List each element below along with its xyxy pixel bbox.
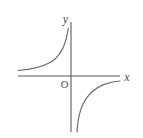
hyperbola-branch-quadrant-2 <box>18 28 68 70</box>
y-axis-label: y <box>62 12 69 26</box>
hyperbola-branch-quadrant-4 <box>77 81 120 132</box>
hyperbola-figure: y x O <box>0 0 143 138</box>
graph-canvas: y x O <box>0 0 143 138</box>
x-axis-label: x <box>123 70 130 84</box>
origin-label: O <box>61 79 69 90</box>
